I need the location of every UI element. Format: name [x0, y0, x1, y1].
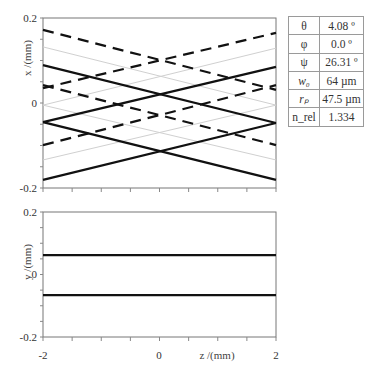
param-row-psi: ψ 26.31 º	[289, 53, 364, 71]
param-symbol: rₚ	[289, 90, 320, 108]
param-row-nrel: n_rel 1.334	[289, 108, 364, 126]
param-value: 26.31 º	[320, 53, 364, 71]
param-value: 0.0 º	[320, 35, 364, 53]
param-symbol: θ	[289, 17, 320, 35]
top-plot-frame	[43, 18, 276, 188]
bottom-plot-x-ticks	[43, 337, 276, 341]
param-value: 64 µm	[320, 71, 364, 89]
top-plot-x-ticks	[43, 188, 276, 192]
x-axis-label: z /(mm)	[199, 349, 234, 362]
bottom-ytick-min: -0.2	[20, 331, 37, 343]
param-row-phi: φ 0.0 º	[289, 35, 364, 53]
param-row-theta: θ 4.08 º	[289, 17, 364, 35]
top-plot: 0.2 0 -0.2 x /(mm)	[20, 12, 276, 194]
param-value: 47.5 µm	[320, 90, 364, 108]
top-ytick-zero: 0	[32, 97, 38, 109]
param-symbol: ψ	[289, 53, 320, 71]
param-symbol: w₀	[289, 71, 320, 89]
top-ytick-max: 0.2	[23, 12, 37, 24]
top-ytick-min: -0.2	[20, 182, 37, 194]
param-row-rp: rₚ 47.5 µm	[289, 90, 364, 108]
xtick-min: -2	[38, 349, 47, 361]
bottom-y-axis-label: y /(mm)	[21, 244, 34, 280]
param-value: 1.334	[320, 108, 364, 126]
param-symbol: φ	[289, 35, 320, 53]
xtick-max: 2	[273, 349, 279, 361]
bottom-plot-frame	[43, 212, 276, 337]
bottom-plot: 0.2 0 -0.2 y /(mm) -2 0 2 z /(mm)	[20, 206, 279, 362]
param-symbol: n_rel	[289, 108, 320, 126]
top-y-axis-label: x /(mm)	[21, 40, 34, 76]
bottom-ytick-max: 0.2	[23, 206, 37, 218]
param-value: 4.08 º	[320, 17, 364, 35]
param-row-w0: w₀ 64 µm	[289, 71, 364, 89]
parameter-table: θ 4.08 º φ 0.0 º ψ 26.31 º w₀ 64 µm rₚ 4…	[288, 16, 364, 127]
xtick-zero: 0	[156, 349, 162, 361]
